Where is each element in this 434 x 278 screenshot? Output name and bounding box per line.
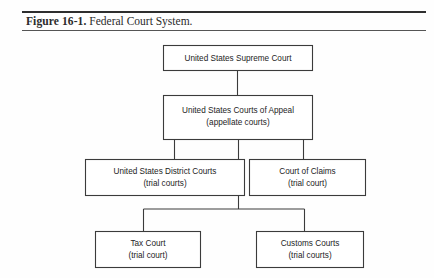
node-tax-court-title: Tax Court bbox=[130, 239, 166, 248]
caption-rule-top bbox=[22, 11, 426, 13]
federal-court-system-diagram: United States Supreme Court United State… bbox=[0, 36, 434, 278]
node-customs-courts-title: Customs Courts bbox=[281, 239, 340, 248]
node-district-courts-title: United States District Courts bbox=[114, 167, 217, 176]
node-customs-courts[interactable]: Customs Courts (trial courts) bbox=[257, 232, 364, 268]
figure-title: Federal Court System. bbox=[89, 15, 192, 27]
figure-number: Figure 16-1. bbox=[26, 15, 86, 27]
node-customs-courts-subtitle: (trial courts) bbox=[288, 251, 331, 260]
node-district-courts[interactable]: United States District Courts (trial cou… bbox=[86, 160, 245, 196]
node-district-courts-subtitle: (trial courts) bbox=[143, 179, 186, 188]
figure-caption-block: Figure 16-1. Federal Court System. bbox=[0, 0, 434, 36]
node-court-of-claims-title: Court of Claims bbox=[279, 167, 335, 176]
node-court-of-claims-box bbox=[250, 160, 366, 196]
node-courts-of-appeal-subtitle: (appellate courts) bbox=[206, 118, 270, 127]
caption-rule-bottom bbox=[22, 30, 426, 31]
node-supreme-court-title: United States Supreme Court bbox=[185, 54, 293, 63]
node-court-of-claims[interactable]: Court of Claims (trial court) bbox=[250, 160, 366, 196]
node-court-of-claims-subtitle: (trial court) bbox=[288, 179, 327, 188]
node-courts-of-appeal-title: United States Courts of Appeal bbox=[182, 106, 294, 115]
figure-page: Figure 16-1. Federal Court System. bbox=[0, 0, 434, 278]
node-tax-court-subtitle: (trial court) bbox=[128, 251, 167, 260]
node-tax-court[interactable]: Tax Court (trial court) bbox=[96, 232, 201, 268]
node-courts-of-appeal[interactable]: United States Courts of Appeal (appellat… bbox=[164, 96, 313, 140]
node-tax-court-box bbox=[96, 232, 201, 268]
figure-caption: Figure 16-1. Federal Court System. bbox=[26, 14, 192, 29]
node-supreme-court[interactable]: United States Supreme Court bbox=[164, 46, 313, 71]
connector-layer bbox=[144, 70, 305, 231]
node-customs-courts-box bbox=[257, 232, 364, 268]
node-district-courts-box bbox=[86, 160, 245, 196]
